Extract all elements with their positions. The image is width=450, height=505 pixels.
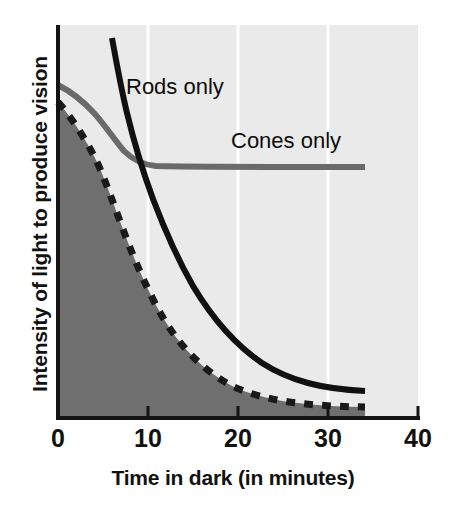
- x-tick-label-10: 10: [124, 424, 172, 453]
- dark-adaptation-chart: Intensity of light to produce vision: [0, 0, 450, 505]
- x-tick-label-0: 0: [34, 424, 82, 453]
- x-tick-label-40: 40: [394, 424, 442, 453]
- rods-only-label: Rods only: [126, 74, 224, 100]
- cones-only-label: Cones only: [231, 128, 341, 154]
- x-tick-label-20: 20: [214, 424, 262, 453]
- x-axis-title: Time in dark (in minutes): [38, 466, 428, 490]
- x-tick-label-30: 30: [304, 424, 352, 453]
